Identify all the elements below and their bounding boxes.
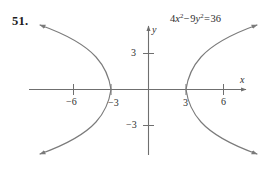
x-axis-label: x (240, 74, 244, 85)
hyperbola-figure: 51. 4x2−9y2=36 −6 −3 (0, 0, 269, 171)
plot-canvas (0, 0, 269, 171)
x-tick-label--3: −3 (108, 97, 119, 108)
hyperbola-left-branch-upper (40, 25, 111, 90)
x-tick-label-6: 6 (221, 96, 226, 107)
x-tick-label-3: 3 (183, 97, 188, 108)
y-tick-label--3: −3 (126, 119, 137, 130)
hyperbola-right-branch-upper (186, 25, 257, 90)
y-axis-label: y (152, 24, 156, 35)
x-tick-label--6: −6 (66, 96, 77, 107)
y-tick-label-3: 3 (131, 47, 136, 58)
